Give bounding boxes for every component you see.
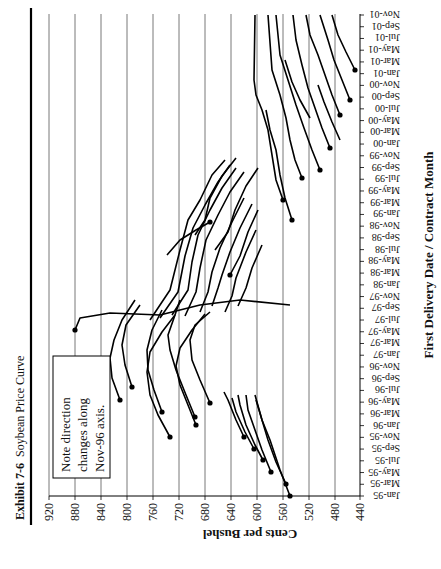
month-tick-label: Nov-98 — [369, 220, 400, 231]
month-tick-label: Jul-96 — [375, 384, 400, 395]
month-tick-label: May-99 — [368, 185, 400, 196]
month-ticks — [360, 15, 364, 496]
month-tick-label: Jul-98 — [375, 244, 400, 255]
curve-start-markers — [72, 67, 357, 498]
month-tick-label: Jan-96 — [373, 420, 400, 431]
month-tick-label: Jul-00 — [375, 103, 400, 114]
svg-text:680: 680 — [198, 503, 212, 521]
month-tick-label: Sep-01 — [372, 21, 400, 32]
month-tick-label: Jul-99 — [375, 173, 400, 184]
month-tick-label: Jan-95 — [373, 490, 400, 501]
month-tick-label: Nov-01 — [369, 9, 400, 20]
soybean-price-curve-figure: Exhibit 7-6Soybean Price Curve 920 880 8… — [0, 0, 441, 569]
month-tick-label: Nov-99 — [369, 150, 400, 161]
month-tick-label: Jan-97 — [373, 349, 400, 360]
month-tick-label: May-01 — [368, 44, 400, 55]
month-tick-label: May-00 — [368, 115, 400, 126]
month-tick-label: Jan-00 — [373, 138, 400, 149]
svg-text:440: 440 — [353, 503, 367, 521]
month-tick-label: Sep-97 — [372, 302, 400, 313]
month-tick-label: May-96 — [368, 396, 400, 407]
month-tick-label: Mar-99 — [370, 197, 400, 208]
month-tick-label: Nov-00 — [369, 79, 400, 90]
svg-text:760: 760 — [146, 503, 160, 521]
month-tick-label: Mar-98 — [370, 267, 400, 278]
month-tick-label: May-97 — [368, 326, 400, 337]
price-axis-title: Cents per Bushel — [202, 527, 297, 542]
svg-text:840: 840 — [94, 503, 108, 521]
exhibit-title: Exhibit 7-6Soybean Price Curve — [13, 356, 27, 520]
month-tick-label: Mar-95 — [370, 478, 400, 489]
month-tick-label: Jul-01 — [375, 32, 400, 43]
svg-text:600: 600 — [250, 503, 264, 521]
svg-text:520: 520 — [302, 503, 316, 521]
price-tick-labels: 920 880 840 800 760 720 680 640 600 560 … — [42, 503, 367, 521]
svg-text:Note direction: Note direction — [58, 397, 73, 472]
month-tick-label: Sep-96 — [372, 373, 400, 384]
month-tick-label: Mar-00 — [370, 126, 400, 137]
month-tick-label: Mar-96 — [370, 408, 400, 419]
svg-text:720: 720 — [172, 503, 186, 521]
month-tick-label: Sep-99 — [372, 162, 400, 173]
svg-text:Nov-96 axis.: Nov-96 axis. — [92, 405, 107, 472]
svg-text:800: 800 — [120, 503, 134, 521]
svg-text:640: 640 — [224, 503, 238, 521]
exhibit-number: Exhibit 7-6 — [13, 463, 27, 520]
month-tick-label: Mar-01 — [370, 56, 400, 67]
price-ticks — [49, 496, 360, 500]
svg-text:560: 560 — [276, 503, 290, 521]
month-tick-label: Sep-00 — [372, 91, 400, 102]
svg-text:920: 920 — [42, 503, 56, 521]
month-tick-label: Jul-95 — [375, 455, 400, 466]
month-tick-label: Nov-96 — [369, 361, 400, 372]
month-tick-label: May-98 — [368, 255, 400, 266]
month-axis-title: First Delivery Date / Contract Month — [421, 151, 436, 359]
month-tick-label: Mar-97 — [370, 337, 400, 348]
month-tick-label: Nov-95 — [369, 431, 400, 442]
svg-text:880: 880 — [68, 503, 82, 521]
exhibit-caption: Soybean Price Curve — [13, 356, 27, 457]
month-tick-label: Jan-98 — [373, 279, 400, 290]
month-tick-label: Sep-95 — [372, 443, 400, 454]
month-tick-labels: Jan-95Mar-95May-95Jul-95Sep-95Nov-95Jan-… — [368, 9, 400, 501]
note-box: Note direction changes along Nov-96 axis… — [53, 356, 110, 478]
month-tick-label: Sep-98 — [372, 232, 400, 243]
svg-text:changes along: changes along — [75, 397, 90, 472]
svg-text:480: 480 — [328, 503, 342, 521]
month-tick-label: Jan-01 — [373, 68, 400, 79]
month-tick-label: Jan-99 — [373, 208, 400, 219]
month-tick-label: May-95 — [368, 467, 400, 478]
month-tick-label: Jul-97 — [375, 314, 400, 325]
month-tick-label: Nov-97 — [369, 291, 400, 302]
price-curves — [75, 15, 355, 496]
